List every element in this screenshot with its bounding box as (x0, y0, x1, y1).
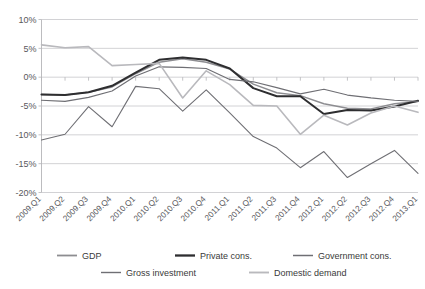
xcat-label: 2011.Q1 (203, 194, 231, 222)
line-chart: 10%5%0%-5%-10%-15%-20% 2009.Q12009.Q2200… (0, 0, 425, 289)
ytick-label: -10% (15, 130, 36, 140)
figure-container: 10%5%0%-5%-10%-15%-20% 2009.Q12009.Q2200… (0, 0, 425, 289)
legend-group: GDPPrivate cons.Government cons.Gross in… (57, 251, 392, 278)
legend-label: Domestic demand (274, 268, 347, 278)
ytick-label: 5% (23, 44, 36, 54)
legend-label: Gross investment (126, 268, 197, 278)
legend-label: Private cons. (200, 251, 252, 261)
series-line (42, 58, 419, 115)
ytick-label: 10% (18, 15, 36, 25)
legend-label: Government cons. (318, 251, 392, 261)
ytick-label: -15% (15, 159, 36, 169)
xcat-label: 2010.Q4 (179, 194, 208, 223)
ytick-labels-group: 10%5%0%-5%-10%-15%-20% (15, 15, 36, 198)
legend-label: GDP (82, 251, 102, 261)
ytick-label: 0% (23, 72, 36, 82)
xcat-labels-group: 2009.Q12009.Q22009.Q32009.Q42010.Q12010.… (14, 194, 419, 223)
gridlines-group (42, 20, 419, 193)
series-lines-group (42, 45, 419, 178)
ytick-label: -20% (15, 188, 36, 198)
xcat-label: 2011.Q2 (227, 194, 255, 222)
xcat-label: 2013.Q1 (391, 194, 420, 223)
xcat-label: 2011.Q3 (250, 194, 278, 222)
ytick-label: -5% (20, 101, 36, 111)
